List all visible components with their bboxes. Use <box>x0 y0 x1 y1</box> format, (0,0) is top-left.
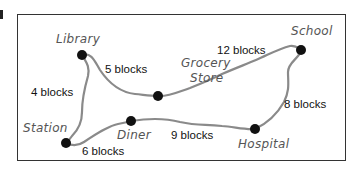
road-school-hospital <box>255 50 301 129</box>
label-diner: Diner <box>117 128 151 142</box>
distance-station-diner: 6 blocks <box>82 145 124 157</box>
label-station: Station <box>23 121 68 135</box>
distance-diner-hospital: 9 blocks <box>171 129 213 141</box>
distance-grocery-school: 12 blocks <box>217 44 266 56</box>
node-grocery <box>153 91 163 101</box>
node-library <box>77 50 87 60</box>
label-library: Library <box>56 32 100 46</box>
label-hospital: Hospital <box>238 137 289 151</box>
road-library-grocery <box>82 54 158 96</box>
label-grocery-line2: Store <box>190 71 223 85</box>
node-school <box>296 45 306 55</box>
distance-library-grocery: 5 blocks <box>105 63 147 75</box>
node-station <box>61 138 71 148</box>
label-school: School <box>291 24 333 38</box>
label-grocery-line1: Grocery <box>181 56 231 70</box>
distance-school-hospital: 8 blocks <box>284 98 326 110</box>
distance-library-station: 4 blocks <box>31 86 73 98</box>
node-diner <box>126 116 136 126</box>
road-library-station <box>66 55 89 143</box>
node-hospital <box>250 124 260 134</box>
